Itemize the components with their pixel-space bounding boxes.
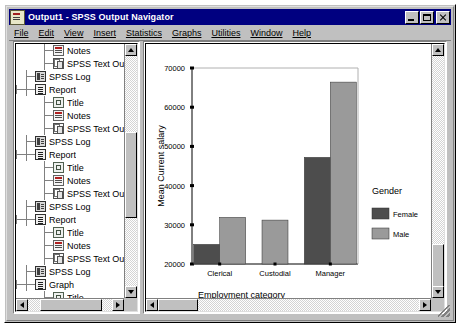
tree-item-label: SPSS Text Outp.. [67, 124, 124, 134]
tree-item[interactable]: SPSS Log [16, 135, 124, 148]
menu-view[interactable]: View [59, 27, 88, 39]
tree-connector-line [17, 284, 26, 285]
window-title: Output1 - SPSS Output Navigator [28, 12, 404, 22]
tree-hscroll-thumb[interactable] [40, 299, 102, 311]
tree-item-label: Notes [67, 111, 91, 121]
tree-item[interactable]: -Report [16, 213, 124, 226]
title-icon [53, 97, 64, 108]
tree-item-label: Title [67, 163, 84, 173]
scroll-down-arrow[interactable] [432, 286, 444, 298]
report-icon [35, 84, 46, 95]
chart-vscroll-thumb[interactable] [432, 244, 444, 290]
minimize-button[interactable] [405, 11, 419, 24]
scroll-down-arrow[interactable] [125, 286, 137, 298]
tree-item[interactable]: -Report [16, 148, 124, 161]
spss-log-icon [35, 201, 46, 212]
y-axis-tick [190, 106, 194, 109]
outline-tree-list[interactable]: NotesSPSS Text Outp..SPSS Log-ReportTitl… [16, 44, 124, 298]
bar-female-clerical[interactable] [194, 244, 220, 264]
tree-vertical-scrollbar[interactable] [124, 44, 137, 298]
client-area: NotesSPSS Text Outp..SPSS Log-ReportTitl… [9, 41, 451, 318]
tree-item-label: SPSS Log [49, 202, 91, 212]
menu-window[interactable]: Window [245, 27, 287, 39]
report-icon [35, 279, 46, 290]
tree-item-label: Notes [67, 176, 91, 186]
tree-horizontal-scrollbar[interactable] [16, 298, 124, 311]
tree-item-label: SPSS Log [49, 72, 91, 82]
scroll-left-arrow[interactable] [146, 299, 158, 311]
menu-statistics-label: Statistics [126, 28, 162, 38]
tree-item-label: Title [67, 98, 84, 108]
notes-icon [53, 240, 64, 251]
menu-utilities[interactable]: Utilities [206, 27, 245, 39]
menu-graphs-label: Graphs [172, 28, 202, 38]
tree-item[interactable]: Title [16, 96, 124, 109]
y-axis-tick [190, 67, 194, 70]
tree-connector-line [44, 128, 53, 129]
spss-log-icon [35, 266, 46, 277]
tree-item[interactable]: SPSS Log [16, 200, 124, 213]
maximize-button[interactable] [420, 11, 434, 24]
scroll-right-arrow[interactable] [112, 299, 124, 311]
tree-item[interactable]: Title [16, 226, 124, 239]
text-output-icon [53, 58, 64, 69]
scroll-up-arrow[interactable] [432, 44, 444, 56]
tree-item[interactable]: Notes [16, 109, 124, 122]
tree-connector-line [17, 219, 26, 220]
menu-insert[interactable]: Insert [88, 27, 121, 39]
scroll-right-arrow[interactable] [419, 299, 431, 311]
tree-connector-line [26, 206, 35, 207]
y-axis-tick-label: 30000 [164, 221, 185, 230]
bar-female-manager[interactable] [304, 157, 330, 264]
tree-item[interactable]: Notes [16, 239, 124, 252]
legend-label-male: Male [393, 230, 409, 239]
legend-swatch-female [372, 208, 389, 219]
bar-male-clerical[interactable] [220, 217, 246, 264]
menu-graphs[interactable]: Graphs [167, 27, 207, 39]
scroll-left-arrow[interactable] [16, 299, 28, 311]
tree-item[interactable]: -Graph [16, 278, 124, 291]
y-axis-title: Mean Current salary [156, 125, 166, 207]
tree-item[interactable]: Notes [16, 44, 124, 57]
tree-connector-line [26, 154, 35, 155]
tree-vscroll-thumb[interactable] [125, 132, 137, 218]
chart-hscroll-thumb[interactable] [158, 299, 198, 311]
tree-item[interactable]: SPSS Text Outp.. [16, 122, 124, 135]
tree-connector-line [26, 141, 35, 142]
bar-male-custodial[interactable] [262, 220, 288, 264]
close-button[interactable] [436, 11, 450, 24]
legend-label-female: Female [393, 210, 418, 219]
x-axis-tick-label: Manager [316, 269, 346, 278]
tree-item-label: Notes [67, 241, 91, 251]
tree-item[interactable]: -Report [16, 83, 124, 96]
tree-item[interactable]: SPSS Log [16, 70, 124, 83]
output-chart-pane: 200003000040000500006000070000ClericalCu… [143, 41, 447, 314]
tree-item[interactable]: Title [16, 291, 124, 298]
legend-swatch-male [372, 228, 389, 239]
tree-item-label: Report [49, 150, 76, 160]
menu-edit[interactable]: Edit [34, 27, 60, 39]
window-resize-grip[interactable] [438, 305, 450, 317]
bar-chart[interactable]: 200003000040000500006000070000ClericalCu… [146, 44, 431, 298]
tree-connector-line [44, 258, 53, 259]
scroll-up-arrow[interactable] [125, 44, 137, 56]
chart-horizontal-scrollbar[interactable] [146, 298, 431, 311]
menu-help[interactable]: Help [287, 27, 316, 39]
title-bar[interactable]: Output1 - SPSS Output Navigator [9, 9, 451, 25]
tree-item-label: SPSS Text Outp.. [67, 254, 124, 264]
tree-item[interactable]: SPSS Text Outp.. [16, 57, 124, 70]
tree-item[interactable]: SPSS Text Outp.. [16, 187, 124, 200]
tree-item[interactable]: Notes [16, 174, 124, 187]
tree-item[interactable]: SPSS Text Outp.. [16, 252, 124, 265]
chart-vertical-scrollbar[interactable] [431, 44, 444, 298]
tree-connector-line [44, 115, 53, 116]
tree-item-label: Notes [67, 46, 91, 56]
menu-statistics[interactable]: Statistics [121, 27, 167, 39]
bar-male-manager[interactable] [330, 82, 356, 264]
tree-item[interactable]: Title [16, 161, 124, 174]
tree-connector-line [26, 271, 35, 272]
menu-file[interactable]: File [9, 27, 34, 39]
tree-connector-line [17, 89, 26, 90]
tree-item[interactable]: SPSS Log [16, 265, 124, 278]
spss-log-icon [35, 136, 46, 147]
